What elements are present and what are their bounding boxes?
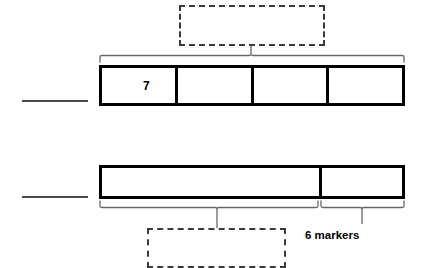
- top-answer-box[interactable]: [179, 5, 325, 46]
- top-bar-brace: [100, 46, 404, 62]
- bottom-tape-bar: [99, 165, 405, 199]
- bottom-answer-box[interactable]: [147, 228, 286, 268]
- tape-cell-value: 7: [143, 80, 150, 92]
- tape-cell[interactable]: [329, 68, 402, 103]
- six-markers-label: 6 markers: [305, 229, 359, 241]
- bottom-answer-line[interactable]: [22, 196, 88, 198]
- top-tape-bar: 7: [99, 65, 405, 106]
- tape-cell[interactable]: [102, 168, 322, 196]
- bottom-right-brace: [321, 201, 404, 224]
- tape-cell[interactable]: 7: [102, 68, 178, 103]
- tape-cell[interactable]: [178, 68, 254, 103]
- top-answer-line[interactable]: [22, 100, 88, 102]
- tape-cell[interactable]: [322, 168, 402, 196]
- bottom-left-brace: [100, 201, 318, 228]
- tape-cell[interactable]: [254, 68, 330, 103]
